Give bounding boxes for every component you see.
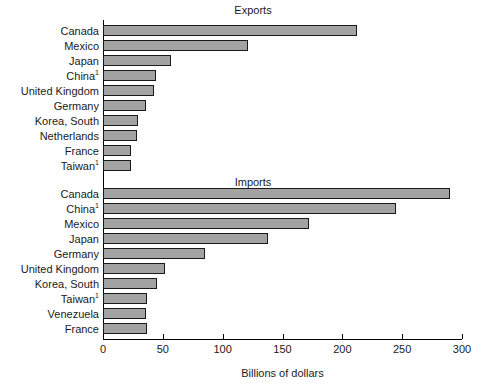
bar <box>103 293 147 304</box>
bar <box>103 160 131 171</box>
bar-category-label: Taiwan1 <box>0 160 99 173</box>
x-axis-tick-label: 0 <box>83 343 123 355</box>
bar <box>103 278 157 289</box>
bar-category-label: Venezuela <box>0 308 99 321</box>
bar-category-label: France <box>0 323 99 336</box>
x-axis-label: Billions of dollars <box>103 367 462 379</box>
bar <box>103 233 268 244</box>
bar-category-label: China1 <box>0 70 99 83</box>
x-axis-tick <box>342 334 343 339</box>
bar <box>103 100 146 111</box>
bar-row: China1 <box>0 69 485 84</box>
bar-category-label: Japan <box>0 55 99 68</box>
bar-category-label: Germany <box>0 248 99 261</box>
x-axis-tick <box>462 334 463 339</box>
bar-row: Canada <box>0 24 485 39</box>
bar-row: Taiwan1 <box>0 292 485 307</box>
bar-row: France <box>0 144 485 159</box>
x-axis-tick-label: 300 <box>442 343 482 355</box>
bar-category-label: Taiwan1 <box>0 293 99 306</box>
bar <box>103 85 154 96</box>
bar-category-label: Mexico <box>0 218 99 231</box>
x-axis-tick <box>283 334 284 339</box>
bar-category-label: Netherlands <box>0 130 99 143</box>
bar-row: France <box>0 322 485 337</box>
bar-category-label: Canada <box>0 188 99 201</box>
bar-row: Germany <box>0 247 485 262</box>
bar-row: Korea, South <box>0 114 485 129</box>
x-axis-tick <box>163 334 164 339</box>
bar-category-label: Korea, South <box>0 115 99 128</box>
bar-category-label: Germany <box>0 100 99 113</box>
bar <box>103 323 147 334</box>
bar-row: Taiwan1 <box>0 159 485 174</box>
bar-category-label: Korea, South <box>0 278 99 291</box>
x-axis-tick-label: 50 <box>143 343 183 355</box>
x-axis-tick <box>402 334 403 339</box>
bar-row: Mexico <box>0 39 485 54</box>
bar <box>103 25 357 36</box>
bar <box>103 40 248 51</box>
bar <box>103 115 138 126</box>
x-axis-tick-label: 150 <box>263 343 303 355</box>
bar-row: Mexico <box>0 217 485 232</box>
x-axis-tick <box>223 334 224 339</box>
bar-category-label: China1 <box>0 203 99 216</box>
bar-category-label: Canada <box>0 25 99 38</box>
bar-row: Korea, South <box>0 277 485 292</box>
x-axis-line <box>103 339 462 340</box>
bar-category-label: Japan <box>0 233 99 246</box>
bar <box>103 203 396 214</box>
bar-row: Netherlands <box>0 129 485 144</box>
x-axis-tick <box>103 334 104 339</box>
x-axis-tick-label: 200 <box>322 343 362 355</box>
bar-category-label: France <box>0 145 99 158</box>
bar <box>103 55 171 66</box>
exports-panel-title: Exports <box>178 4 328 16</box>
bar <box>103 308 146 319</box>
bar <box>103 263 165 274</box>
bar-row: United Kingdom <box>0 262 485 277</box>
bar <box>103 188 450 199</box>
bar-category-label: United Kingdom <box>0 85 99 98</box>
bar <box>103 218 309 229</box>
bar-row: Germany <box>0 99 485 114</box>
bar <box>103 145 131 156</box>
bar-row: China1 <box>0 202 485 217</box>
x-axis-tick-label: 100 <box>203 343 243 355</box>
bar-row: United Kingdom <box>0 84 485 99</box>
bar-row: Japan <box>0 54 485 69</box>
x-axis-tick-label: 250 <box>382 343 422 355</box>
bar-row: Japan <box>0 232 485 247</box>
bar <box>103 70 156 81</box>
bar-row: Canada <box>0 187 485 202</box>
bar-category-label: United Kingdom <box>0 263 99 276</box>
bar-chart-figure: Exports Imports CanadaMexicoJapanChina1U… <box>0 0 485 392</box>
bar-row: Venezuela <box>0 307 485 322</box>
bar-category-label: Mexico <box>0 40 99 53</box>
bar <box>103 248 205 259</box>
bar <box>103 130 137 141</box>
